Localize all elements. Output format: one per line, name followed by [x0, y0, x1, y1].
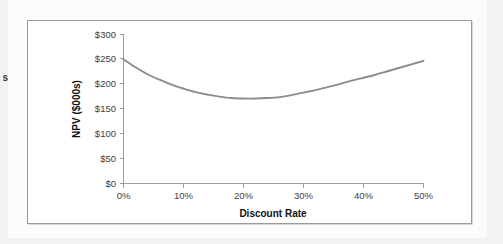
y-tick-label: $250 — [95, 53, 116, 64]
x-tick-labels: 0% 10% 20% 30% 40% 50% — [117, 190, 434, 201]
y-axis-ticks — [120, 35, 124, 184]
x-tick-label: 40% — [354, 190, 374, 201]
y-axis-title: NPV ($000s) — [71, 80, 82, 138]
x-tick-label: 10% — [174, 190, 194, 201]
x-tick-label: 30% — [294, 190, 314, 201]
x-axis-title: Discount Rate — [239, 208, 307, 219]
npv-curve-line — [124, 59, 424, 98]
x-tick-label: 0% — [117, 190, 131, 201]
y-tick-label: $200 — [95, 78, 116, 89]
left-margin-text-fragment: s — [0, 71, 8, 85]
y-tick-label: $0 — [105, 178, 116, 189]
chart-panel: $0 $50 $100 $150 $200 $250 $300 0% 10% 2… — [27, 20, 472, 224]
y-tick-label: $50 — [100, 153, 116, 164]
x-tick-label: 50% — [414, 190, 434, 201]
y-tick-labels: $0 $50 $100 $150 $200 $250 $300 — [95, 29, 116, 189]
y-tick-label: $100 — [95, 128, 116, 139]
x-axis-ticks — [124, 184, 424, 188]
plot-area: $0 $50 $100 $150 $200 $250 $300 0% 10% 2… — [28, 21, 471, 223]
page-background: s — [0, 0, 503, 244]
y-tick-label: $150 — [95, 103, 116, 114]
x-tick-label: 20% — [234, 190, 254, 201]
npv-profile-chart: $0 $50 $100 $150 $200 $250 $300 0% 10% 2… — [28, 21, 473, 225]
y-tick-label: $300 — [95, 29, 116, 40]
